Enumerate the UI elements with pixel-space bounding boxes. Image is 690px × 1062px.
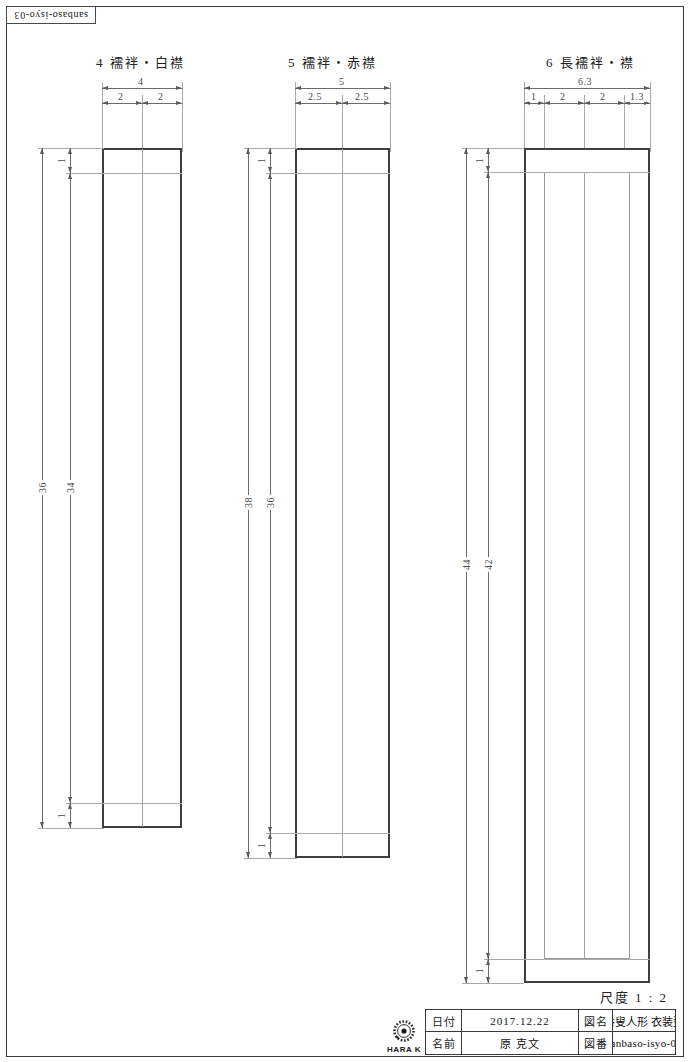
figure-title-6: 6 長襦袢・襟 bbox=[546, 52, 635, 71]
fig5-ext-right bbox=[390, 82, 391, 152]
fig4-dim-36-arrow-top bbox=[40, 148, 44, 154]
fig6-dim-1bot-text: 1 bbox=[474, 966, 485, 976]
fig5-dim-left-text: 2.5 bbox=[306, 91, 324, 102]
fig5-dim-38-arrow-bottom bbox=[246, 852, 250, 858]
fig4-dim-34-text: 34 bbox=[65, 480, 76, 495]
fig5-exth-seam-bot bbox=[266, 833, 390, 834]
fig5-dim-total-text: 5 bbox=[337, 76, 347, 87]
fig5-dim-1bot-arrow-bottom bbox=[268, 852, 272, 858]
fig4-dim-1top-arrow-top bbox=[68, 148, 72, 154]
drawing-name-value: 三番叟人形 衣装型紙 bbox=[613, 1010, 675, 1032]
fig6-dim-44-arrow-top bbox=[464, 148, 468, 154]
fig4-center-line bbox=[142, 149, 143, 827]
sheet-frame-right bbox=[683, 6, 684, 1057]
fig5-dim-right-arrow-left bbox=[342, 101, 348, 105]
fig5-dim-1bot-arrow-top bbox=[268, 833, 272, 839]
fig6-dim-44-arrow-bottom bbox=[464, 977, 468, 983]
sheet-frame-bottom bbox=[6, 1056, 684, 1057]
fig6-dim-total-arrow-left bbox=[524, 86, 530, 90]
fig6-center-line bbox=[584, 173, 585, 958]
fig5-exth-bottom bbox=[244, 858, 297, 859]
fig4-dim-36-text: 36 bbox=[37, 480, 48, 495]
date-label: 日付 bbox=[426, 1010, 462, 1032]
fig4-dim-right-text: 2 bbox=[156, 91, 166, 102]
fig5-dim-right-text: 2.5 bbox=[353, 91, 371, 102]
fig4-dim-right-arrow-right bbox=[176, 101, 182, 105]
fig5-center-line bbox=[342, 149, 343, 857]
fig6-dim-1top-arrow-bottom bbox=[486, 166, 490, 172]
fig6-dim-total-line bbox=[524, 88, 650, 89]
fig6-dim-total-text: 6.3 bbox=[576, 76, 594, 87]
fig4-dim-left-arrow-left bbox=[102, 101, 108, 105]
sheet-code-box: sanbaso-isyo-03 bbox=[6, 6, 96, 24]
fig6-dim-s2-arrow-left bbox=[544, 101, 550, 105]
fig4-dim-total-arrow-right bbox=[176, 86, 182, 90]
fig5-dim-36-text: 36 bbox=[265, 495, 276, 510]
fig6-exth-top bbox=[462, 148, 524, 149]
fig4-exth-bottom bbox=[38, 828, 104, 829]
fig6-dim-1top-text: 1 bbox=[474, 156, 485, 166]
sheet-code-label: sanbaso-isyo-03 bbox=[14, 10, 88, 21]
drawing-sheet: sanbaso-isyo-03 4 襦袢・白襟 4 2 2 36 34 1 1 bbox=[0, 0, 690, 1062]
fig6-dim-44-text: 44 bbox=[461, 557, 472, 572]
fig5-dim-right-line bbox=[342, 103, 390, 104]
fig4-dim-1top-text: 1 bbox=[56, 156, 67, 166]
fig4-dim-34-arrow-top bbox=[68, 173, 72, 179]
fig6-dim-1bot-arrow-top bbox=[486, 959, 490, 965]
fig6-dim-42-text: 42 bbox=[483, 557, 494, 572]
drawing-no-label: 図番 bbox=[579, 1032, 613, 1054]
drawing-no-value: sanbaso-isyo-03 bbox=[613, 1032, 675, 1054]
fig4-dim-total-arrow-left bbox=[102, 86, 108, 90]
name-value: 原 克文 bbox=[462, 1032, 579, 1054]
figure-title-4: 4 襦袢・白襟 bbox=[96, 52, 185, 71]
fig4-exth-seam-top bbox=[66, 173, 182, 174]
fig4-dim-36-arrow-bottom bbox=[40, 822, 44, 828]
fig5-dim-total-arrow-left bbox=[295, 86, 301, 90]
fig4-dim-1bot-arrow-bottom bbox=[68, 822, 72, 828]
fig4-dim-1top-arrow-bottom bbox=[68, 167, 72, 173]
fig4-dim-right-arrow-left bbox=[142, 101, 148, 105]
fig4-dim-total-line bbox=[102, 88, 182, 89]
hara-k-logo: HARA K bbox=[383, 1012, 425, 1054]
fig6-exth-seam-top bbox=[484, 172, 650, 173]
fig6-ext-5 bbox=[650, 82, 651, 152]
fig4-dim-total-text: 4 bbox=[136, 76, 146, 87]
fig5-dim-total-arrow-right bbox=[384, 86, 390, 90]
date-value: 2017.12.22 bbox=[462, 1010, 579, 1032]
fig5-dim-1top-arrow-bottom bbox=[268, 167, 272, 173]
fig6-ext-1 bbox=[524, 82, 525, 152]
fig4-dim-left-text: 2 bbox=[116, 91, 126, 102]
fig6-dim-s3-arrow-left bbox=[584, 101, 590, 105]
fig6-exth-seam-bot bbox=[484, 959, 650, 960]
fig6-dim-42-arrow-top bbox=[486, 172, 490, 178]
fig6-dim-1bot-arrow-bottom bbox=[486, 977, 490, 983]
fig5-dim-total-line bbox=[295, 88, 390, 89]
fig4-exth-seam-bot bbox=[66, 803, 182, 804]
figure-title-5: 5 襦袢・赤襟 bbox=[288, 52, 377, 71]
fig4-ext-left bbox=[102, 82, 103, 152]
fig5-ext-left bbox=[295, 82, 296, 152]
fig6-dim-s4-text: 1.3 bbox=[628, 91, 646, 102]
fig5-dim-38-text: 38 bbox=[243, 495, 254, 510]
fig6-dim-s2-text: 2 bbox=[558, 91, 568, 102]
fig6-dim-total-arrow-right bbox=[644, 86, 650, 90]
fig5-dim-1top-arrow-top bbox=[268, 148, 272, 154]
title-block: 日付 2017.12.22 図名 三番叟人形 衣装型紙 名前 原 克文 図番 s… bbox=[425, 1009, 676, 1055]
fig6-dim-s3-text: 2 bbox=[598, 91, 608, 102]
fig5-dim-1bot-text: 1 bbox=[256, 841, 267, 851]
fig6-dim-1top-arrow-top bbox=[486, 148, 490, 154]
fig5-dim-right-arrow-right bbox=[384, 101, 390, 105]
sheet-frame-left bbox=[6, 6, 7, 1057]
drawing-name-label: 図名 bbox=[579, 1010, 613, 1032]
fig5-dim-left-line bbox=[295, 103, 342, 104]
fig5-dim-left-arrow-left bbox=[295, 101, 301, 105]
fig6-dim-s1-text: 1 bbox=[529, 91, 539, 102]
fig4-dim-1bot-text: 1 bbox=[56, 811, 67, 821]
fig5-exth-seam-top bbox=[266, 173, 390, 174]
fig5-dim-1top-text: 1 bbox=[256, 156, 267, 166]
logo-text: HARA K bbox=[387, 1045, 421, 1054]
fig5-dim-36-arrow-top bbox=[268, 173, 272, 179]
starburst-icon bbox=[387, 1017, 421, 1047]
name-label: 名前 bbox=[426, 1032, 462, 1054]
fig5-dim-38-arrow-top bbox=[246, 148, 250, 154]
